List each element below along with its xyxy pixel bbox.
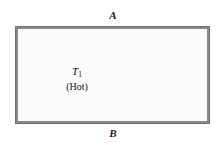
top-wall-label-a: A [103, 9, 123, 21]
chamber-hot: T1 (Hot) [18, 29, 114, 121]
thermodynamics-figure: A T1 (Hot) T2 (Cold) B [0, 0, 223, 145]
container-box: T1 (Hot) T2 (Cold) [15, 26, 210, 124]
chamber-cold: T2 (Cold) [114, 29, 207, 121]
temperature-subscript: 1 [78, 70, 82, 79]
chamber-hot-state: (Hot) [52, 80, 102, 93]
chamber-hot-label: T1 (Hot) [52, 65, 102, 93]
temperature-symbol-t1: T1 [52, 65, 102, 79]
bottom-wall-label-b: B [103, 127, 123, 139]
